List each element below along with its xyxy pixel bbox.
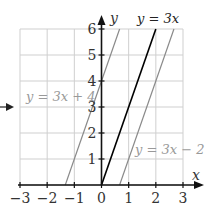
x-tick-label: 3 [179,190,188,206]
y-tick-label: 1 [88,151,97,167]
pointer-arrow [0,103,14,111]
tick-labels: −3−2−10123123456 [10,21,188,206]
x-axis-label: x [192,167,200,183]
y-axis-label: y [109,10,119,26]
y-tick-label: 2 [88,125,97,141]
y-axis-arrow [98,15,106,25]
label-y-3x: y = 3x [136,11,180,26]
x-tick-label: −2 [37,190,58,206]
y-tick-label: 6 [88,21,97,37]
x-tick-label: −3 [10,190,31,206]
label-y-3x-plus-4: y = 3x + 4 [25,89,96,104]
x-tick-label: 0 [97,190,106,206]
x-tick-label: 2 [151,190,160,206]
y-tick-label: 4 [88,73,97,89]
chart: −3−2−10123123456 y x y = 3x y = 3x + 4 y… [0,0,213,216]
label-y-3x-minus-2: y = 3x − 2 [134,142,205,157]
x-tick-label: 1 [124,190,133,206]
y-tick-label: 5 [88,47,97,63]
x-tick-label: −1 [64,190,85,206]
